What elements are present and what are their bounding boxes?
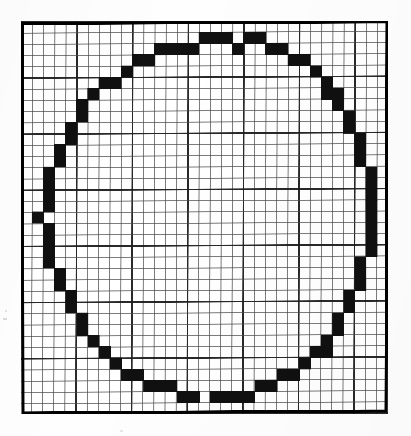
scan-speck [120, 430, 123, 432]
scan-speck [5, 310, 7, 312]
scan-speck [3, 318, 7, 320]
grid-canvas [21, 21, 388, 414]
raster-grid [21, 21, 388, 414]
figure-container [0, 0, 411, 436]
